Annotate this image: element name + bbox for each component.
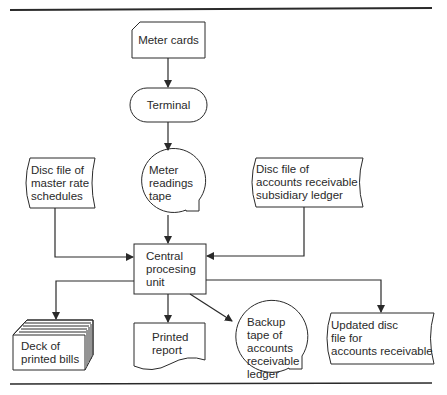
bottom-rule bbox=[10, 383, 432, 384]
terminal-label: Terminal bbox=[130, 99, 207, 112]
ar-subsidiary-disc-label: Disc file of accounts receivable subsidi… bbox=[256, 163, 366, 202]
edge-master-disc-cpu bbox=[55, 208, 133, 257]
top-rule bbox=[10, 8, 432, 10]
edge-cpu-bills bbox=[56, 281, 134, 319]
printed-bills-label: Deck of printed bills bbox=[21, 340, 91, 366]
meter-cards-label: Meter cards bbox=[132, 34, 205, 47]
backup-tape-label: Backup tape of accounts receivable ledge… bbox=[247, 316, 309, 381]
printed-report-label: Printed report bbox=[152, 331, 207, 357]
edge-cpu-backup bbox=[190, 294, 232, 321]
meter-tape-label: Meter readings tape bbox=[149, 164, 209, 203]
master-rate-disc-label: Disc file of master rate schedules bbox=[31, 164, 101, 203]
edge-ar-disc-cpu bbox=[207, 207, 304, 256]
updated-ar-disc-label: Updated disc file for accounts receivabl… bbox=[331, 319, 441, 358]
cpu-label: Central procesing unit bbox=[146, 250, 206, 289]
